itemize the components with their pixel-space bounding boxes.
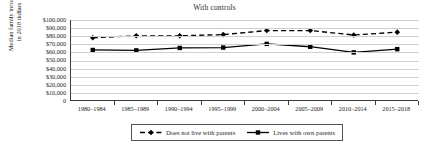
legend-label: Does not live with parents bbox=[166, 129, 235, 137]
gridline bbox=[71, 28, 419, 29]
y-axis-tick-label: $60,000 bbox=[20, 49, 66, 55]
y-axis-tick-label: $20,000 bbox=[20, 82, 66, 88]
legend-key-dashed-diamond-icon bbox=[139, 128, 163, 137]
legend-entry[interactable]: Does not live with parents bbox=[139, 128, 235, 137]
y-axis-tick-label: 0 bbox=[20, 98, 66, 104]
gridline bbox=[71, 52, 419, 53]
y-axis-tick-labels: $100,000$90,000$80,000$70,000$60,000$50,… bbox=[20, 14, 66, 106]
y-axis-tick-label: $80,000 bbox=[20, 33, 66, 39]
data-point-marker bbox=[395, 47, 399, 51]
y-axis-tick-label: $40,000 bbox=[20, 66, 66, 72]
legend-key-solid-square-icon bbox=[246, 128, 270, 137]
plot-area bbox=[70, 20, 418, 101]
data-point-marker bbox=[221, 45, 225, 49]
y-axis-tick-label: $50,000 bbox=[20, 57, 66, 63]
y-axis-tick-label: $70,000 bbox=[20, 41, 66, 47]
legend-entry[interactable]: Lives with own parents bbox=[246, 128, 335, 137]
x-axis-tick-labels: 1980–19841985–19891990–19941995–19992000… bbox=[70, 105, 418, 117]
data-point-marker bbox=[178, 46, 182, 50]
y-axis-tick-label: $10,000 bbox=[20, 90, 66, 96]
legend-label: Lives with own parents bbox=[273, 129, 335, 137]
gridline bbox=[71, 44, 419, 45]
x-axis-tick-label: 2015–2018 bbox=[366, 105, 426, 113]
x-axis-tickmark bbox=[418, 101, 419, 105]
gridline bbox=[71, 93, 419, 94]
y-axis-tick-label: $30,000 bbox=[20, 74, 66, 80]
y-axis-title-line1: Median family income bbox=[7, 0, 14, 51]
gridline bbox=[71, 20, 419, 21]
gridline bbox=[71, 85, 419, 86]
gridline bbox=[71, 61, 419, 62]
chart-figure: With controls Median family income in 20… bbox=[0, 0, 429, 149]
chart-title: With controls bbox=[0, 3, 429, 12]
chart-legend: Does not live with parentsLives with own… bbox=[131, 124, 343, 141]
gridline bbox=[71, 77, 419, 78]
gridline bbox=[71, 36, 419, 37]
y-axis-tick-label: $100,000 bbox=[20, 17, 66, 23]
gridline bbox=[71, 69, 419, 70]
y-axis-tick-label: $90,000 bbox=[20, 25, 66, 31]
data-point-marker bbox=[394, 29, 400, 35]
